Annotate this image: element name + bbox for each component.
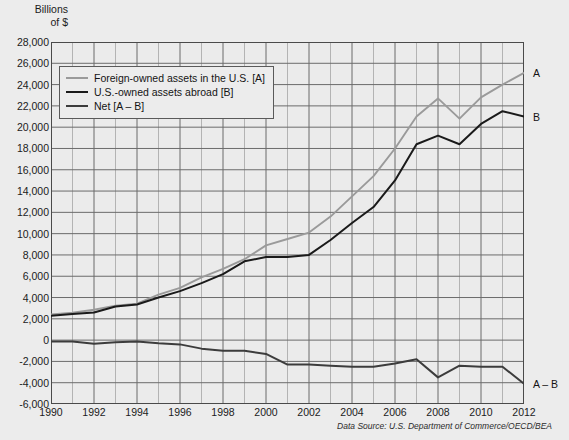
x-tick-label: 2000 [254, 406, 277, 418]
series-end-label: A – B [533, 378, 558, 390]
chart-legend: Foreign-owned assets in the U.S. [A]U.S.… [59, 66, 274, 119]
y-tick-label: 16,000 [1, 164, 49, 176]
legend-color-swatch [66, 77, 88, 79]
x-tick-label: 2010 [469, 406, 492, 418]
y-tick-label: 8,000 [1, 249, 49, 261]
data-source-note: Data Source: U.S. Department of Commerce… [0, 421, 552, 431]
y-tick-label: 2,000 [1, 313, 49, 325]
y-tick-label: 26,000 [1, 57, 49, 69]
y-tick-label: -4,000 [1, 377, 49, 389]
x-axis-tick-labels: 1990199219941996199820002002200420062008… [51, 406, 524, 422]
y-tick-label: 10,000 [1, 228, 49, 240]
y-axis-title: Billions of $ [6, 3, 68, 29]
y-tick-label: 20,000 [1, 121, 49, 133]
series-end-label: B [533, 111, 540, 123]
x-tick-label: 1990 [39, 406, 62, 418]
legend-item: Foreign-owned assets in the U.S. [A] [66, 71, 265, 85]
x-tick-label: 1998 [211, 406, 234, 418]
y-tick-label: -2,000 [1, 355, 49, 367]
x-tick-label: 2006 [383, 406, 406, 418]
legend-item: U.S.-owned assets abroad [B] [66, 85, 265, 99]
legend-item-label: Net [A – B] [94, 100, 144, 112]
y-tick-label: 12,000 [1, 206, 49, 218]
x-tick-label: 1992 [82, 406, 105, 418]
y-tick-label: 24,000 [1, 79, 49, 91]
y-tick-label: 6,000 [1, 270, 49, 282]
y-tick-label: 22,000 [1, 100, 49, 112]
y-tick-label: 14,000 [1, 185, 49, 197]
x-tick-label: 2004 [340, 406, 363, 418]
x-tick-label: 2002 [297, 406, 320, 418]
x-tick-label: 2008 [426, 406, 449, 418]
y-tick-label: 18,000 [1, 142, 49, 154]
series-end-label: A [533, 67, 540, 79]
legend-item-label: Foreign-owned assets in the U.S. [A] [94, 72, 265, 84]
legend-color-swatch [66, 105, 88, 107]
x-tick-label: 1994 [125, 406, 148, 418]
legend-color-swatch [66, 91, 88, 93]
legend-item: Net [A – B] [66, 99, 265, 113]
legend-item-label: U.S.-owned assets abroad [B] [94, 86, 234, 98]
y-tick-label: 28,000 [1, 36, 49, 48]
y-tick-label: 0 [1, 334, 49, 346]
y-tick-label: 4,000 [1, 292, 49, 304]
chart-figure: Billions of $ 28,00026,00024,00022,00020… [0, 0, 569, 440]
series-end-labels: ABA – B [524, 42, 569, 410]
y-axis-tick-labels: 28,00026,00024,00022,00020,00018,00016,0… [0, 42, 49, 404]
x-tick-label: 1996 [168, 406, 191, 418]
